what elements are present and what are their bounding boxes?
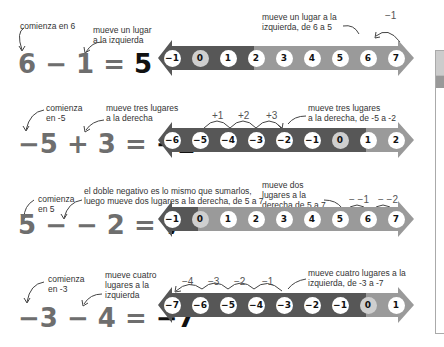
number-circle: −3 bbox=[276, 297, 293, 314]
number-circle: −5 bbox=[192, 132, 209, 149]
number-circle: −2 bbox=[304, 297, 321, 314]
number-circle: 0 bbox=[360, 297, 377, 314]
number-circle: 2 bbox=[388, 132, 405, 149]
number-circle: 7 bbox=[388, 211, 405, 228]
number-circle: −1 bbox=[304, 132, 321, 149]
number-circle: 3 bbox=[276, 50, 293, 67]
number-circle: 5 bbox=[332, 211, 349, 228]
number-circle: −6 bbox=[192, 297, 209, 314]
note-line-1: mueve un lugar a laizquierda, de 6 a 5 bbox=[262, 12, 337, 32]
equation-1: 6 − 1 = 5 bbox=[18, 50, 152, 78]
number-circle: 3 bbox=[276, 211, 293, 228]
side-panel-subheader bbox=[436, 76, 444, 88]
number-circle: 5 bbox=[332, 50, 349, 67]
number-circle: 1 bbox=[220, 50, 237, 67]
number-circle: −2 bbox=[276, 132, 293, 149]
number-circle: 6 bbox=[360, 50, 377, 67]
number-circle: −7 bbox=[164, 297, 181, 314]
number-circle: 2 bbox=[248, 211, 265, 228]
number-circle: 1 bbox=[360, 132, 377, 149]
number-circle: 4 bbox=[304, 50, 321, 67]
number-circle: 4 bbox=[304, 211, 321, 228]
side-panel-header bbox=[436, 51, 444, 76]
number-circle: −4 bbox=[220, 132, 237, 149]
side-panel bbox=[435, 50, 444, 334]
number-circle: 1 bbox=[220, 211, 237, 228]
number-circle: −1 bbox=[164, 50, 181, 67]
number-circle: 0 bbox=[192, 50, 209, 67]
number-circle: −1 bbox=[164, 211, 181, 228]
number-circle: −3 bbox=[248, 132, 265, 149]
number-circle: 6 bbox=[360, 211, 377, 228]
number-circle: −1 bbox=[332, 297, 349, 314]
number-circle: 1 bbox=[388, 297, 405, 314]
number-circle: 7 bbox=[388, 50, 405, 67]
step-label: −1 bbox=[385, 10, 396, 21]
number-circle: 2 bbox=[248, 50, 265, 67]
number-circle: 0 bbox=[192, 211, 209, 228]
number-circle: −6 bbox=[164, 132, 181, 149]
number-circle: −4 bbox=[248, 297, 265, 314]
number-circle: 0 bbox=[332, 132, 349, 149]
number-circle: −5 bbox=[220, 297, 237, 314]
